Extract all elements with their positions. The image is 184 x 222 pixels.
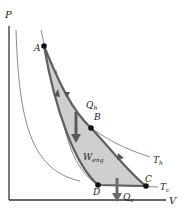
- point-c: [143, 183, 149, 189]
- label-c: C: [145, 174, 152, 184]
- hot-isotherm-label: Th: [153, 155, 163, 166]
- point-a: [41, 43, 47, 49]
- point-b: [88, 125, 94, 131]
- y-axis-label: P: [4, 9, 12, 20]
- arrow-bc-icon: [117, 153, 124, 160]
- pv-diagram: P V A B C D Qh Weng Qc Th Tc: [0, 0, 184, 222]
- heat-in-label: Qh: [86, 100, 97, 111]
- label-d: D: [92, 187, 100, 197]
- x-axis-label: V: [169, 195, 178, 206]
- cold-isotherm-label: Tc: [160, 182, 170, 193]
- label-b: B: [93, 112, 101, 122]
- label-a: A: [33, 43, 41, 53]
- heat-out-label: Qc: [123, 192, 134, 203]
